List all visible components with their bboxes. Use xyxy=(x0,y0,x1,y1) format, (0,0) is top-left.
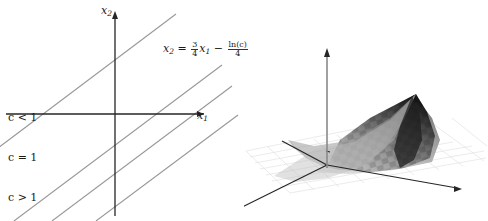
figure-root: x2 x1 x2 = 3 4 x1 − ln(c) 4 c < 1 c = 1 … xyxy=(0,0,488,221)
slope-fraction: 3 4 xyxy=(191,41,198,59)
level-line-2 xyxy=(14,65,222,221)
left-y-axis-label: x2 xyxy=(101,5,112,17)
exponential-surface xyxy=(274,94,440,182)
right-panel: y x1 x2 y = e3x1−4x2 xyxy=(244,0,488,221)
level-line-4 xyxy=(96,115,238,221)
level-line-3 xyxy=(52,86,232,221)
c-less-than-one-label: c < 1 xyxy=(8,112,37,123)
x2-axis-arrow xyxy=(112,11,118,19)
level-set-equation: x2 = 3 4 x1 − ln(c) 4 xyxy=(163,41,249,59)
x1-axis-arrow-right xyxy=(454,186,462,192)
level-line-1 xyxy=(0,14,176,154)
left-x-axis-label: x1 xyxy=(197,110,208,122)
right-panel-canvas xyxy=(244,0,488,221)
left-panel: x2 x1 x2 = 3 4 x1 − ln(c) 4 c < 1 c = 1 … xyxy=(0,0,244,221)
y-axis-arrow xyxy=(324,48,330,57)
c-greater-than-one-label: c > 1 xyxy=(8,192,37,203)
c-equals-one-label: c = 1 xyxy=(8,152,37,163)
